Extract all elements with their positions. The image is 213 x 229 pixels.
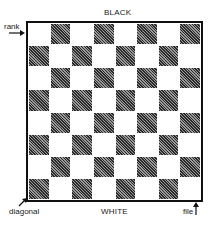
light-square bbox=[158, 23, 180, 45]
dark-square bbox=[158, 45, 180, 67]
light-square bbox=[179, 89, 201, 111]
light-square bbox=[115, 67, 137, 89]
light-square bbox=[93, 45, 115, 67]
light-square bbox=[71, 23, 93, 45]
file-label: file bbox=[183, 208, 193, 216]
file-arrow-icon bbox=[193, 202, 199, 215]
light-square bbox=[50, 134, 72, 156]
light-square bbox=[71, 67, 93, 89]
light-square bbox=[28, 67, 50, 89]
light-square bbox=[28, 112, 50, 134]
dark-square bbox=[50, 156, 72, 178]
light-square bbox=[28, 23, 50, 45]
dark-square bbox=[115, 178, 137, 200]
chessboard bbox=[26, 21, 203, 202]
dark-square bbox=[136, 156, 158, 178]
dark-square bbox=[50, 67, 72, 89]
dark-square bbox=[71, 89, 93, 111]
rank-arrow-icon bbox=[9, 30, 25, 36]
light-square bbox=[179, 178, 201, 200]
dark-square bbox=[93, 23, 115, 45]
dark-square bbox=[179, 67, 201, 89]
light-square bbox=[71, 156, 93, 178]
light-square bbox=[115, 112, 137, 134]
dark-square bbox=[136, 23, 158, 45]
light-square bbox=[115, 23, 137, 45]
dark-square bbox=[93, 156, 115, 178]
dark-square bbox=[115, 134, 137, 156]
dark-square bbox=[158, 178, 180, 200]
dark-square bbox=[136, 67, 158, 89]
light-square bbox=[93, 178, 115, 200]
dark-square bbox=[93, 112, 115, 134]
dark-square bbox=[50, 23, 72, 45]
light-square bbox=[136, 45, 158, 67]
light-square bbox=[136, 178, 158, 200]
dark-square bbox=[179, 156, 201, 178]
dark-square bbox=[71, 134, 93, 156]
light-square bbox=[179, 134, 201, 156]
dark-square bbox=[28, 89, 50, 111]
light-square bbox=[158, 67, 180, 89]
diagonal-arrow-icon bbox=[19, 198, 27, 206]
dark-square bbox=[50, 112, 72, 134]
dark-square bbox=[158, 89, 180, 111]
dark-square bbox=[115, 45, 137, 67]
black-side-label: BLACK bbox=[104, 9, 131, 17]
light-square bbox=[136, 134, 158, 156]
dark-square bbox=[28, 178, 50, 200]
white-side-label: WHITE bbox=[101, 208, 128, 216]
dark-square bbox=[28, 45, 50, 67]
dark-square bbox=[115, 89, 137, 111]
dark-square bbox=[93, 67, 115, 89]
diagonal-label: diagonal bbox=[9, 208, 39, 216]
light-square bbox=[93, 134, 115, 156]
dark-square bbox=[179, 23, 201, 45]
light-square bbox=[71, 112, 93, 134]
light-square bbox=[136, 89, 158, 111]
dark-square bbox=[179, 112, 201, 134]
light-square bbox=[50, 89, 72, 111]
light-square bbox=[28, 156, 50, 178]
light-square bbox=[115, 156, 137, 178]
light-square bbox=[179, 45, 201, 67]
light-square bbox=[158, 112, 180, 134]
light-square bbox=[158, 156, 180, 178]
dark-square bbox=[71, 178, 93, 200]
dark-square bbox=[71, 45, 93, 67]
dark-square bbox=[158, 134, 180, 156]
dark-square bbox=[28, 134, 50, 156]
dark-square bbox=[136, 112, 158, 134]
light-square bbox=[50, 178, 72, 200]
light-square bbox=[50, 45, 72, 67]
light-square bbox=[93, 89, 115, 111]
